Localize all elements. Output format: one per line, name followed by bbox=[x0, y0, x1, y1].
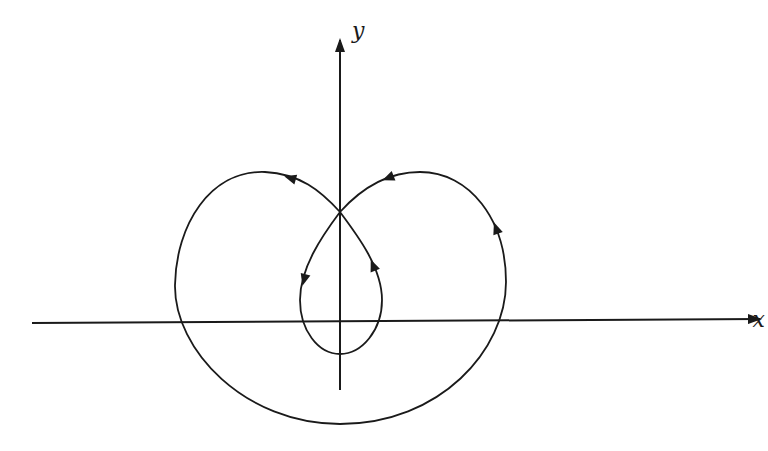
arrow-icon-inner-left bbox=[298, 273, 311, 287]
arrow-icon-inner-right bbox=[366, 258, 380, 273]
x-axis-label: x bbox=[753, 309, 765, 331]
x-axis bbox=[32, 319, 760, 323]
arrow-icon-outer-right-side bbox=[489, 221, 503, 236]
y-axis-label: y bbox=[352, 20, 364, 42]
arrow-icon-outer-right-top bbox=[381, 171, 396, 185]
arrow-icon-outer-left-top bbox=[283, 172, 297, 185]
limacon-diagram bbox=[0, 0, 768, 451]
